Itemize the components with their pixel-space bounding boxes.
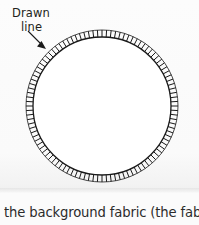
page-seam-shadow bbox=[0, 188, 199, 194]
callout-arrow-head bbox=[37, 41, 46, 49]
body-text-line: the background fabric (the fabric vo bbox=[4, 205, 199, 221]
callout-label-line1: Drawn bbox=[12, 7, 50, 20]
drawn-circle-outline bbox=[33, 37, 171, 175]
figure-page: Drawn line the background fabric (the fa… bbox=[0, 0, 199, 225]
callout-label-line2: line bbox=[21, 21, 42, 34]
figure-area: Drawn line bbox=[0, 0, 199, 192]
